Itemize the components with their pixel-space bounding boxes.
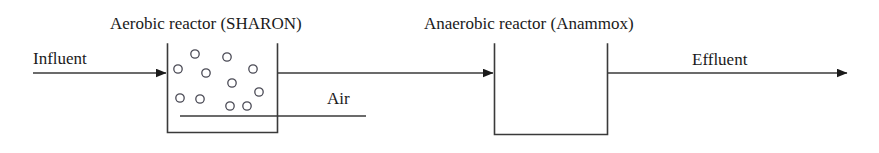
anaerobic-reactor-vessel [495, 44, 608, 135]
aeration-bubble-icon [226, 102, 234, 110]
aeration-bubble-icon [255, 88, 263, 96]
aeration-bubble-icon [191, 50, 199, 58]
anaerobic-reactor-title: Anaerobic reactor (Anammox) [424, 15, 634, 32]
aerobic-reactor-title: Aerobic reactor (SHARON) [110, 15, 302, 32]
air-label: Air [327, 90, 350, 107]
aeration-bubble-icon [249, 65, 257, 73]
aeration-bubble-icon [228, 79, 236, 87]
aeration-bubble-icon [223, 53, 231, 61]
aeration-bubble-icon [176, 94, 184, 102]
aeration-bubble-icon [196, 95, 204, 103]
influent-label: Influent [33, 50, 87, 67]
aeration-bubble-group [174, 50, 263, 110]
aeration-bubble-icon [174, 65, 182, 73]
effluent-label: Effluent [692, 51, 747, 68]
aeration-bubble-icon [243, 102, 251, 110]
aeration-bubble-icon [202, 69, 210, 77]
process-flow-diagram: Aerobic reactor (SHARON) Anaerobic react… [0, 0, 879, 153]
